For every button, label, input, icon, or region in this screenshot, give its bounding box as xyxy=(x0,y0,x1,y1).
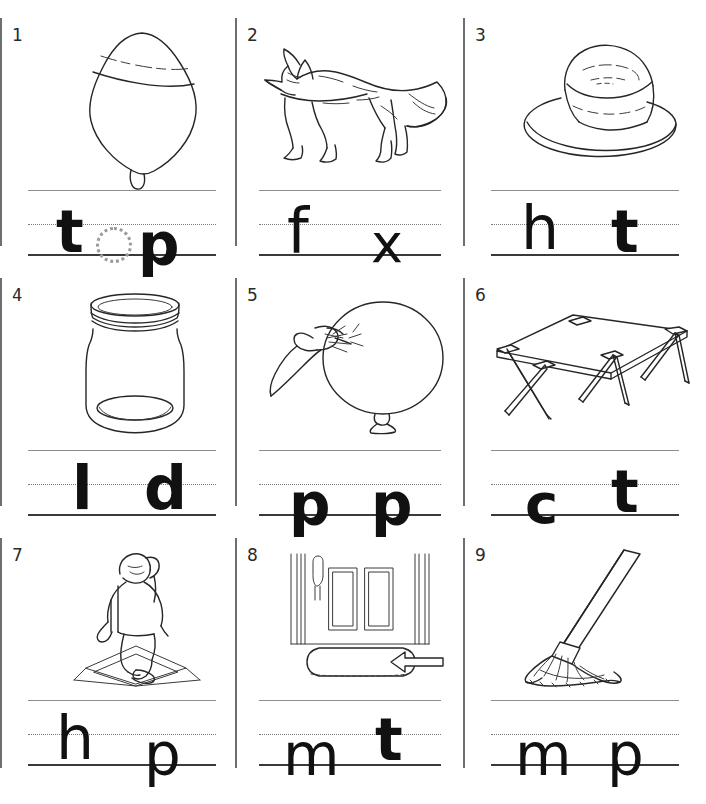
cell-divider xyxy=(0,538,2,768)
cell-divider xyxy=(235,538,237,768)
handwriting-lines[interactable]: t p xyxy=(28,190,216,256)
cell-divider xyxy=(0,278,2,506)
handwriting-lines[interactable]: h p xyxy=(28,700,216,766)
letter-slot-3: p xyxy=(138,216,180,274)
item-number: 3 xyxy=(475,27,486,44)
letter-slot-1: m xyxy=(283,726,340,784)
letter-slots: m p xyxy=(491,700,679,766)
picture-hand-popping-balloon xyxy=(263,290,453,440)
letter-slots: h t xyxy=(491,190,679,256)
letter-slot-1: t xyxy=(56,203,84,261)
worksheet-item-6[interactable]: 6 xyxy=(463,278,706,518)
handwriting-lines[interactable]: l d xyxy=(28,450,216,516)
letter-slot-3: p xyxy=(371,476,413,534)
handwriting-lines[interactable]: h t xyxy=(491,190,679,256)
letter-slot-1: c xyxy=(525,476,558,532)
letter-slot-1: m xyxy=(515,726,572,784)
worksheet-item-5[interactable]: 5 xyxy=(235,278,463,518)
letter-slots: l d xyxy=(28,450,216,516)
letter-slot-3: t xyxy=(375,711,403,769)
worksheet-item-7[interactable]: 7 xyxy=(0,538,235,788)
handwriting-lines[interactable]: c t xyxy=(491,450,679,516)
handwriting-lines[interactable]: m p xyxy=(491,700,679,766)
worksheet-page: 1 t p xyxy=(0,0,706,804)
cell-divider xyxy=(463,538,465,768)
item-number: 4 xyxy=(12,287,22,304)
cell-divider xyxy=(463,18,465,246)
worksheet-row-2: 4 l d xyxy=(0,278,706,518)
picture-cot xyxy=(487,300,697,430)
letter-slot-1: h xyxy=(56,708,94,768)
handwriting-lines[interactable]: f x xyxy=(259,190,441,256)
worksheet-item-9[interactable]: 9 m xyxy=(463,538,706,788)
cell-divider xyxy=(235,278,237,506)
letter-slot-3: p xyxy=(607,726,644,784)
letter-slot-2-trace-o[interactable] xyxy=(96,227,132,263)
picture-fox xyxy=(255,40,455,170)
worksheet-item-4[interactable]: 4 l d xyxy=(0,278,235,518)
picture-door-with-mat xyxy=(271,546,451,686)
letter-slots: f x xyxy=(259,190,441,256)
picture-mop xyxy=(519,542,689,692)
picture-child-hopping xyxy=(56,542,216,692)
worksheet-row-1: 1 t p xyxy=(0,18,706,258)
item-number: 7 xyxy=(12,547,23,564)
picture-spinning-top xyxy=(62,24,222,184)
letter-slot-3: p xyxy=(144,726,181,784)
item-number: 8 xyxy=(247,547,258,564)
cell-divider xyxy=(0,18,2,246)
letter-slots: h p xyxy=(28,700,216,766)
cell-divider xyxy=(463,278,465,506)
item-number: 9 xyxy=(475,547,486,564)
letter-slot-1: f xyxy=(287,200,309,262)
handwriting-lines[interactable]: m t xyxy=(259,700,441,766)
worksheet-item-3[interactable]: 3 xyxy=(463,18,706,258)
item-number: 5 xyxy=(247,287,258,304)
letter-slots: t p xyxy=(28,190,216,256)
letter-slot-1: p xyxy=(289,476,331,534)
item-number: 6 xyxy=(475,287,486,304)
letter-slot-1: h xyxy=(521,198,559,258)
picture-hat xyxy=(511,36,691,176)
picture-jar xyxy=(70,284,200,444)
letter-slot-3: d xyxy=(144,458,187,518)
worksheet-item-2[interactable]: 2 xyxy=(235,18,463,258)
worksheet-item-8[interactable]: 8 xyxy=(235,538,463,788)
letter-slot-1: l xyxy=(72,458,93,518)
cell-divider xyxy=(235,18,237,246)
item-number: 1 xyxy=(12,27,23,44)
letter-slots: m t xyxy=(259,700,441,766)
letter-slot-3: t xyxy=(611,203,639,261)
letter-slot-3: t xyxy=(611,463,639,521)
letter-slot-3: x xyxy=(371,217,403,271)
handwriting-lines[interactable]: p p xyxy=(259,450,441,516)
letter-slots: p p xyxy=(259,450,441,516)
letter-slots: c t xyxy=(491,450,679,516)
worksheet-row-3: 7 xyxy=(0,538,706,788)
worksheet-item-1[interactable]: 1 t p xyxy=(0,18,235,258)
